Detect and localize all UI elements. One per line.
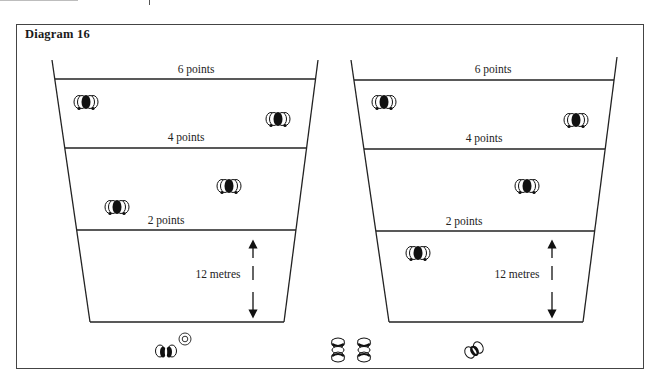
- diagram-canvas: 6 points 4 points 2 points 12 metres 6 p…: [0, 0, 659, 382]
- shooter-icon: [463, 340, 486, 360]
- shooter-with-ball-icon: [156, 345, 177, 358]
- player-group-icon: [74, 95, 98, 110]
- court-left: 6 points 4 points 2 points 12 metres: [52, 60, 318, 322]
- distance-label: 12 metres: [494, 268, 540, 280]
- player-group-icon: [217, 179, 241, 194]
- waiting-players-icon: [331, 338, 344, 362]
- player-group-icon: [105, 200, 129, 215]
- player-group-icon: [266, 112, 290, 127]
- zone-label-4: 4 points: [466, 132, 503, 145]
- distance-label: 12 metres: [195, 268, 241, 280]
- player-group-icon: [406, 246, 430, 261]
- court-right-side-line: [583, 57, 617, 322]
- zone-label-2: 2 points: [446, 215, 483, 228]
- bottom-players: [156, 333, 486, 362]
- zone-label-2: 2 points: [148, 214, 185, 227]
- player-group-icon: [564, 113, 588, 128]
- waiting-players-icon: [357, 338, 370, 362]
- court-right: 6 points 4 points 2 points 12 metres: [351, 57, 617, 322]
- court-right-side-line: [284, 60, 318, 322]
- zone-label-6: 6 points: [178, 63, 215, 76]
- player-group-icon: [372, 95, 396, 110]
- target-ball-icon: [179, 333, 191, 345]
- zone-label-4: 4 points: [168, 131, 205, 144]
- zone-label-6: 6 points: [475, 63, 512, 76]
- player-group-icon: [515, 179, 539, 194]
